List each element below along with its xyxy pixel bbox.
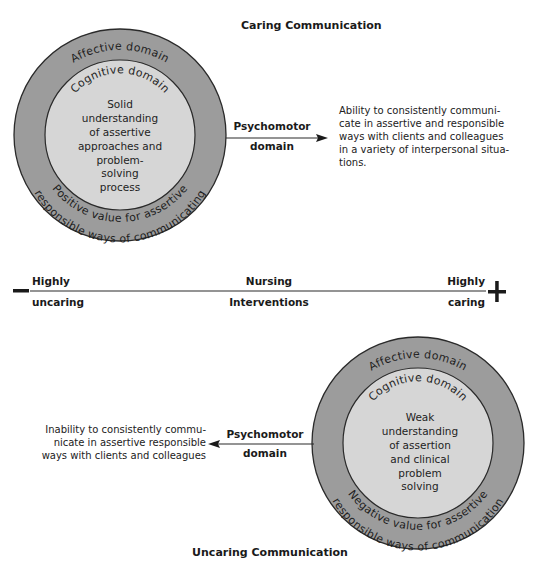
caring-title: Caring Communication <box>241 19 382 32</box>
caring-psychomotor-arrow: Psychomotor domain <box>226 120 328 152</box>
svg-text:tions.: tions. <box>339 157 367 168</box>
svg-text:Inability to consistently comm: Inability to consistently commu- <box>45 424 206 435</box>
minus-icon <box>13 289 29 293</box>
uncaring-outcome-text: Inability to consistently commu- nicate … <box>42 424 207 461</box>
caring-continuum: Highly uncaring Nursing Interventions Hi… <box>13 275 506 308</box>
svg-text:ways with clients and colleagu: ways with clients and colleagues <box>339 131 503 142</box>
svg-text:approaches and: approaches and <box>78 140 162 152</box>
uncaring-title: Uncaring Communication <box>192 546 348 559</box>
caring-outcome-text: Ability to consistently communi- cate in… <box>339 105 510 168</box>
plus-icon-vertical <box>495 281 499 302</box>
svg-text:of assertive: of assertive <box>89 126 150 138</box>
svg-text:nicate in assertive responsibl: nicate in assertive responsible <box>54 437 206 448</box>
svg-text:cate in assertive and responsi: cate in assertive and responsible <box>339 118 504 129</box>
svg-text:process: process <box>100 181 140 193</box>
psychomotor-label: Psychomotor <box>226 428 304 440</box>
svg-text:solving: solving <box>401 480 438 492</box>
svg-text:problem: problem <box>398 467 441 479</box>
left-label-top: Highly <box>32 275 70 287</box>
center-label-bottom: Interventions <box>229 296 309 308</box>
svg-text:of assertion: of assertion <box>389 439 451 451</box>
domain-label: domain <box>250 140 294 152</box>
uncaring-psychomotor-arrow: Psychomotor domain <box>208 428 314 459</box>
caring-domain-circles: Affective domain Cognitive domain Solid … <box>14 29 226 245</box>
svg-text:and clinical: and clinical <box>390 453 449 465</box>
right-label-bottom: caring <box>448 296 485 308</box>
svg-text:Weak: Weak <box>406 411 436 423</box>
svg-text:understanding: understanding <box>382 425 458 437</box>
svg-text:solving: solving <box>101 167 138 179</box>
svg-text:Solid: Solid <box>107 98 133 110</box>
psychomotor-label: Psychomotor <box>233 120 311 132</box>
center-label-top: Nursing <box>246 275 292 287</box>
caring-model-diagram: Caring Communication Affective domain Co… <box>0 0 539 573</box>
left-label-bottom: uncaring <box>32 296 84 308</box>
domain-label: domain <box>243 447 287 459</box>
svg-text:ways with clients and colleagu: ways with clients and colleagues <box>42 450 206 461</box>
svg-text:in a variety of interpersonal: in a variety of interpersonal situa- <box>339 144 510 155</box>
right-label-top: Highly <box>447 275 485 287</box>
svg-text:problem-: problem- <box>96 154 143 166</box>
svg-text:Ability to consistently commun: Ability to consistently communi- <box>339 105 501 116</box>
svg-text:understanding: understanding <box>82 112 158 124</box>
uncaring-domain-circles: Affective domain Cognitive domain Weak u… <box>312 337 524 553</box>
